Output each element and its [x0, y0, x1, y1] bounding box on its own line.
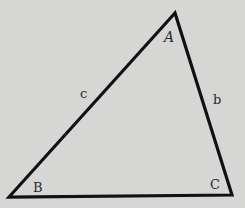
side-label-c: c: [80, 86, 87, 101]
side-label-b: b: [213, 92, 221, 107]
triangle-diagram: A B C c b: [0, 0, 245, 208]
vertex-label-c: C: [210, 177, 220, 192]
paper-texture: [0, 0, 245, 208]
vertex-label-b: B: [33, 180, 43, 195]
vertex-label-a: A: [162, 29, 174, 45]
